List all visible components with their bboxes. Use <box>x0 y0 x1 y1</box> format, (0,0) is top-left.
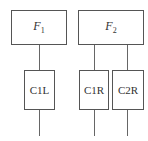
node-c1r: C1R <box>79 70 109 110</box>
node-f2-label: F2 <box>105 19 116 35</box>
node-c2r: C2R <box>112 70 144 110</box>
edge-f1-c1l <box>39 45 40 70</box>
node-c1r-label: C1R <box>84 84 104 96</box>
node-f1-label: F1 <box>33 19 44 35</box>
node-f1: F1 <box>11 10 67 45</box>
diagram-canvas: F1 F2 C1L C1R C2R <box>0 0 148 141</box>
node-c1l-label: C1L <box>30 84 50 96</box>
output-line-c1r <box>94 110 95 136</box>
output-line-c2r <box>127 110 128 136</box>
node-f2: F2 <box>78 10 144 45</box>
edge-f2-c2r <box>127 45 128 70</box>
node-c1l: C1L <box>24 70 55 110</box>
node-c2r-label: C2R <box>118 84 138 96</box>
edge-f2-c1r <box>94 45 95 70</box>
output-line-c1l <box>39 110 40 136</box>
